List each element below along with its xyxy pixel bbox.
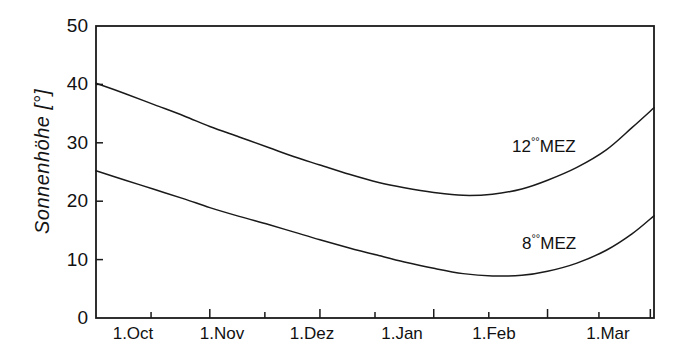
series-label-12mez-unit: MEZ — [540, 137, 576, 156]
y-tick-0: 0 — [52, 307, 88, 329]
series-label-8mez: 8°°MEZ — [522, 232, 576, 254]
plot-background — [96, 26, 654, 318]
x-tick-jan: 1.Jan — [381, 324, 423, 344]
x-tick-nov: 1.Nov — [200, 324, 244, 344]
y-tick-30: 30 — [52, 132, 88, 154]
x-tick-oct: 1.Oct — [113, 324, 154, 344]
x-tick-feb: 1.Feb — [472, 324, 515, 344]
y-tick-50: 50 — [52, 15, 88, 37]
x-tick-dez: 1.Dez — [290, 324, 334, 344]
y-tick-40: 40 — [52, 73, 88, 95]
y-tick-20: 20 — [52, 190, 88, 212]
plot-area — [0, 0, 679, 362]
series-label-12mez: 12°°MEZ — [512, 135, 576, 157]
x-tick-mar: 1.Mar — [586, 324, 629, 344]
y-tick-10: 10 — [52, 249, 88, 271]
series-label-8mez-unit: MEZ — [540, 234, 576, 253]
series-label-12mez-degrees: °° — [531, 135, 540, 147]
series-label-8mez-degrees: °° — [531, 232, 540, 244]
y-axis-label: Sonnenhöhe [°] — [31, 12, 54, 312]
solar-elevation-chart: Sonnenhöhe [°] 0 10 20 30 40 50 #ytick-l… — [0, 0, 679, 362]
series-label-12mez-value: 12 — [512, 137, 531, 156]
